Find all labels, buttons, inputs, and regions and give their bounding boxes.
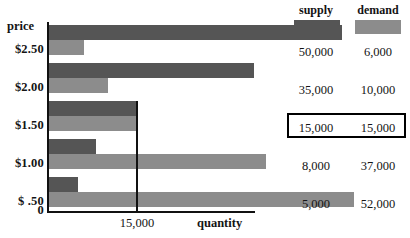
bar-supply-050 — [49, 177, 78, 192]
y-tick-origin: 0 — [38, 203, 44, 218]
bar-supply-100 — [49, 139, 96, 154]
bar-group-250 — [49, 25, 255, 59]
cell-supply: 50,000 — [289, 45, 343, 60]
cell-demand: 6,000 — [349, 45, 407, 60]
cell-demand: 52,000 — [349, 197, 407, 212]
y-tick-100: $1.00 — [15, 156, 44, 171]
bar-demand-100 — [49, 154, 266, 169]
legend-data-table: supply demand 50,000 6,000 35,000 10,000… — [285, 0, 410, 238]
cell-demand: 10,000 — [349, 83, 407, 98]
bar-supply-150 — [49, 101, 137, 116]
reference-line-15000 — [136, 101, 138, 212]
legend-swatch-demand — [355, 20, 401, 34]
table-row: 35,000 10,000 — [285, 80, 410, 102]
table-row: 8,000 37,000 — [285, 156, 410, 178]
table-row: 5,000 52,000 — [285, 194, 410, 216]
bar-group-200 — [49, 63, 255, 97]
legend-swatch-supply — [294, 20, 340, 34]
table-row: 50,000 6,000 — [285, 42, 410, 64]
x-axis-title: quantity — [197, 216, 242, 231]
x-tick-15000: 15,000 — [104, 216, 170, 231]
bar-group-150 — [49, 101, 255, 135]
bar-group-050 — [49, 177, 255, 211]
bar-chart: price $2.50 $2.00 $1.50 $1.00 $ .50 0 — [0, 0, 270, 238]
table-header-demand: demand — [349, 3, 407, 18]
bar-demand-150 — [49, 116, 137, 131]
table-header-supply: supply — [289, 3, 343, 18]
y-tick-250: $2.50 — [15, 42, 44, 57]
bar-demand-250 — [49, 40, 84, 55]
cell-supply: 5,000 — [289, 197, 343, 212]
cell-supply: 35,000 — [289, 83, 343, 98]
plot-area — [49, 22, 255, 212]
y-axis-tick-labels: $2.50 $2.00 $1.50 $1.00 $ .50 0 — [0, 0, 44, 238]
bar-group-100 — [49, 139, 255, 173]
y-tick-200: $2.00 — [15, 80, 44, 95]
equilibrium-highlight-box — [287, 113, 406, 138]
bar-supply-200 — [49, 63, 254, 78]
supply-demand-figure: price $2.50 $2.00 $1.50 $1.00 $ .50 0 — [0, 0, 410, 238]
bar-demand-200 — [49, 78, 108, 93]
y-tick-150: $1.50 — [15, 118, 44, 133]
cell-demand: 37,000 — [349, 159, 407, 174]
cell-supply: 8,000 — [289, 159, 343, 174]
